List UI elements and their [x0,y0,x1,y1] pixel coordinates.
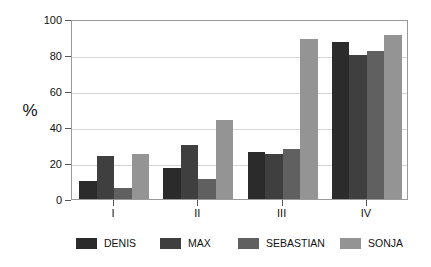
x-axis-ticks [71,200,408,206]
legend-label: MAX [188,238,211,249]
y-tick-label: 20 [50,159,62,170]
legend-item[interactable]: SONJA [340,236,403,250]
chart-legend: DENISMAXSEBASTIANSONJA [71,236,408,252]
bar [181,145,199,199]
x-tick-mark [197,200,198,206]
legend-swatch-icon [160,238,181,249]
legend-item[interactable]: MAX [160,236,211,250]
legend-label: DENIS [104,238,136,249]
bar [384,35,402,199]
bar-chart: % 020406080100 IIIIIIIV DENISMAXSEBASTIA… [0,0,431,267]
legend-item[interactable]: SEBASTIAN [238,236,325,250]
bar [332,42,350,199]
y-tick-label: 0 [56,195,62,206]
bar [349,55,367,199]
x-tick-mark [113,200,114,206]
bar [367,51,385,199]
x-tick-label: II [194,207,200,220]
bar [216,120,234,199]
bar [163,168,181,199]
y-tick-label: 100 [44,15,62,26]
bar [248,152,266,199]
bar [198,179,216,199]
bar [114,188,132,199]
bar [300,39,318,199]
legend-label: SONJA [368,238,403,249]
legend-item[interactable]: DENIS [76,236,136,250]
y-tick-label: 60 [50,87,62,98]
bars-layer [72,21,407,199]
bar [283,149,301,199]
x-tick-mark [282,200,283,206]
x-tick-label: I [112,207,115,220]
legend-label: SEBASTIAN [266,238,325,249]
y-tick-label: 80 [50,51,62,62]
plot-area [71,20,408,200]
legend-swatch-icon [238,238,259,249]
x-tick-label: IV [361,207,371,220]
bar [132,154,150,199]
bar [265,154,283,199]
x-axis-labels: IIIIIIIV [71,207,408,223]
legend-swatch-icon [76,238,97,249]
bar [79,181,97,199]
x-tick-label: III [277,207,286,220]
y-tick-label: 40 [50,123,62,134]
legend-swatch-icon [340,238,361,249]
bar [97,156,115,199]
y-axis-ticks: 020406080100 [40,20,71,200]
x-tick-mark [366,200,367,206]
